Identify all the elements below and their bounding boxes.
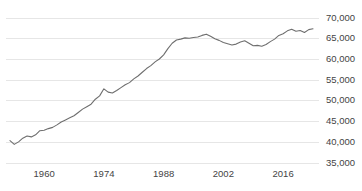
y-tick-label: 50,000 [326, 94, 355, 105]
y-tick-label: 65,000 [326, 32, 355, 43]
gridlines [6, 18, 319, 163]
y-tick-label: 60,000 [326, 53, 355, 64]
x-tick-label: 2016 [273, 168, 294, 179]
x-tick-label: 2002 [213, 168, 234, 179]
x-tick-label: 1974 [93, 168, 114, 179]
series-lines [10, 29, 313, 145]
y-tick-label: 35,000 [326, 157, 355, 168]
y-axis-tick-labels: 70,00065,00060,00055,00050,00045,00040,0… [326, 12, 355, 168]
chart-canvas: 70,00065,00060,00055,00050,00045,00040,0… [0, 0, 362, 191]
line-chart: 70,00065,00060,00055,00050,00045,00040,0… [0, 0, 362, 191]
y-tick-label: 55,000 [326, 74, 355, 85]
x-tick-label: 1960 [34, 168, 55, 179]
x-tick-label: 1988 [153, 168, 174, 179]
y-tick-label: 45,000 [326, 115, 355, 126]
series-line-value [10, 29, 313, 145]
y-tick-label: 70,000 [326, 12, 355, 23]
x-axis-tick-labels: 19601974198820022016 [34, 168, 294, 179]
y-tick-label: 40,000 [326, 136, 355, 147]
